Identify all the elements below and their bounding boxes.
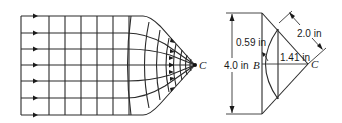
arrow-icon [33,96,38,101]
arrow-icon [33,79,38,84]
arrow-icon [33,63,38,68]
arrow-icon [33,47,38,52]
flow-lines [21,16,195,115]
right-geometry: 0.59 in 4.0 in B 1.41 in 2.0 in C [224,11,326,114]
chord-distance-label: 1.41 in [280,52,310,63]
left-flow-net: C [21,14,207,118]
radius-label: 2.0 in [297,28,321,39]
offset-label: 0.59 in [236,37,266,48]
diagram-canvas: C [0,0,342,123]
point-c-label: C [199,59,207,71]
arrow-icon [33,113,38,118]
point-c-marker [193,63,197,67]
point-c-label-right: C [311,58,319,70]
height-label: 4.0 in [224,60,248,71]
arrow-icon [33,14,38,19]
arrow-icon [33,31,38,36]
flow-net-figure: C [0,0,342,123]
point-b-label: B [253,59,260,71]
